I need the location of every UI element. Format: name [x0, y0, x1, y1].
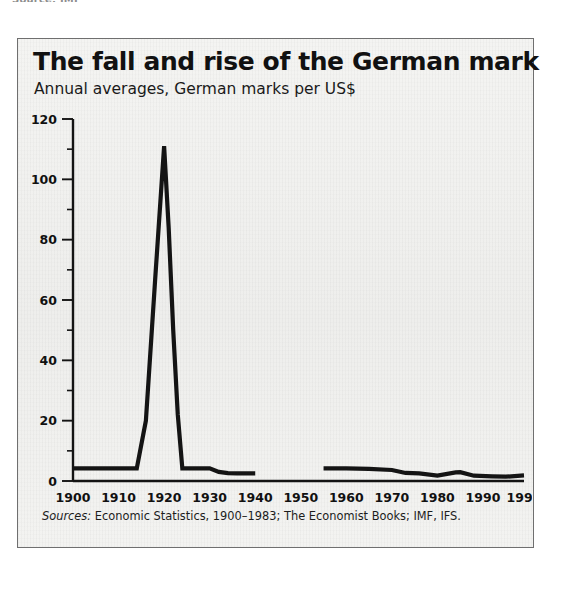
- data-series-lines: [73, 146, 524, 477]
- svg-text:20: 20: [40, 413, 58, 428]
- line-chart-plot: 020406080100120 190019101920193019401950…: [18, 39, 532, 546]
- svg-text:80: 80: [40, 232, 58, 247]
- svg-text:1950: 1950: [283, 490, 318, 505]
- y-axis: 020406080100120: [31, 112, 73, 489]
- svg-text:1980: 1980: [420, 490, 455, 505]
- source-text: Economic Statistics, 1900–1983; The Econ…: [91, 509, 461, 523]
- svg-text:1960: 1960: [329, 490, 364, 505]
- source-note: Sources: Economic Statistics, 1900–1983;…: [42, 509, 461, 523]
- svg-text:1930: 1930: [192, 490, 227, 505]
- x-axis: 1900191019201930194019501960197019801990…: [56, 481, 532, 505]
- svg-text:1900: 1900: [56, 490, 91, 505]
- svg-text:1970: 1970: [374, 490, 409, 505]
- chart-panel: The fall and rise of the German mark Ann…: [17, 38, 534, 548]
- svg-text:60: 60: [40, 293, 58, 308]
- svg-text:1920: 1920: [147, 490, 182, 505]
- clipped-page-source-text: Source: IMF: [12, 0, 81, 2]
- svg-text:0: 0: [48, 474, 57, 489]
- svg-text:120: 120: [31, 112, 57, 127]
- svg-text:1999: 1999: [507, 490, 532, 505]
- svg-text:1910: 1910: [101, 490, 136, 505]
- source-label: Sources:: [42, 509, 91, 523]
- svg-text:40: 40: [40, 353, 58, 368]
- svg-text:100: 100: [31, 172, 57, 187]
- svg-text:1940: 1940: [238, 490, 273, 505]
- svg-text:1990: 1990: [466, 490, 501, 505]
